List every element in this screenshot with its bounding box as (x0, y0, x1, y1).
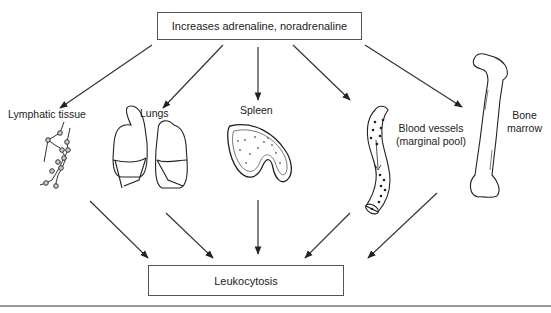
spleen-label: Spleen (240, 104, 273, 117)
arrow-source-to-lungs (163, 45, 223, 108)
arrow-source-to-lymphatic (60, 45, 152, 108)
target-label: Leukocytosis (214, 275, 278, 287)
source-node: Increases adrenaline, noradrenaline (157, 12, 362, 40)
arrow-lymphatic-to-target (90, 201, 148, 258)
bone-marrow-label-line1: Bone (507, 109, 542, 122)
blood-vessels-label-line1: Blood vessels (396, 122, 466, 135)
blood-vessels-label: Blood vessels (marginal pool) (396, 122, 466, 148)
bone-marrow-label-line2: marrow (507, 122, 542, 135)
arrow-source-to-blood-vessels (293, 45, 350, 100)
lymphatic-tissue-label: Lymphatic tissue (8, 108, 86, 121)
blood-vessel-icon (364, 106, 390, 216)
target-node: Leukocytosis (148, 265, 344, 296)
arrow-source-to-bone-marrow (365, 45, 462, 107)
bone-icon (470, 54, 507, 198)
blood-vessels-label-line2: (marginal pool) (396, 135, 466, 148)
bone-marrow-label: Bone marrow (507, 109, 542, 135)
arrow-blood-vessels-to-target (305, 213, 350, 258)
arrow-lungs-to-target (166, 213, 213, 258)
lymphatic-tissue-icon (40, 122, 70, 188)
source-label: Increases adrenaline, noradrenaline (172, 20, 348, 32)
lungs-label: Lungs (140, 107, 169, 120)
spleen-icon (228, 125, 292, 182)
bottom-rule (0, 305, 551, 307)
